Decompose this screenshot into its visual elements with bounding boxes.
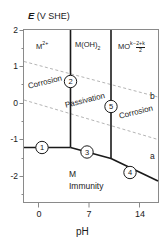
x-tick-label-7: 7 <box>81 209 97 219</box>
region-label-immunity: Immunity <box>69 180 103 192</box>
species-formula: M(OH) <box>75 40 98 49</box>
marker-label-1: 1 <box>36 142 48 154</box>
y-axis-units: (V SHE) <box>37 11 70 21</box>
species-label-hydroxide: M(OH)2 <box>75 40 100 51</box>
x-axis-title: pH <box>76 226 89 237</box>
y-tick-label-neg1: -1 <box>0 134 18 144</box>
pourbaix-diagram-figure: E (V SHE) pH 2 1 0 -1 -2 0 7 14 M2+ M(OH… <box>0 0 165 246</box>
species-charge: 2+ <box>42 40 48 46</box>
species-stoichiometry-fraction: 2+k2 <box>136 41 146 53</box>
y-tick-label-2: 2 <box>0 25 18 35</box>
species-label-oxyanion: MOk−2+k2 <box>118 40 145 53</box>
water-line-label-b: b <box>150 91 155 101</box>
fraction-denominator: 2 <box>136 48 146 53</box>
x-axis-ticks <box>39 203 140 208</box>
species-label-metal-ion: M2+ <box>36 40 48 51</box>
water-line-label-a: a <box>150 151 155 161</box>
marker-label-4: 4 <box>124 167 136 179</box>
y-axis-ticks <box>20 31 24 195</box>
marker-label-2: 2 <box>65 76 77 88</box>
region-label-metal: M <box>69 168 103 180</box>
x-tick-label-14: 14 <box>132 209 148 219</box>
y-tick-label-1: 1 <box>0 61 18 71</box>
marker-label-5: 5 <box>105 101 117 113</box>
species-subscript: 2 <box>98 45 101 51</box>
x-tick-label-0: 0 <box>31 209 47 219</box>
y-axis-symbol: E <box>28 10 34 21</box>
y-tick-label-neg2: -2 <box>0 171 18 181</box>
y-axis-title: E (V SHE) <box>28 10 70 21</box>
y-tick-label-0: 0 <box>0 98 18 108</box>
species-formula: MO <box>118 42 130 51</box>
marker-label-3: 3 <box>81 147 93 159</box>
region-label-immunity-block: M Immunity <box>69 168 103 192</box>
